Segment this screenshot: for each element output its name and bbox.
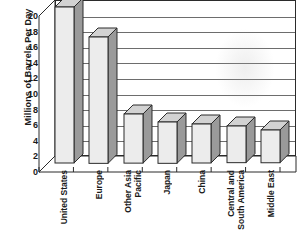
- y-axis-tick-label: 8: [33, 105, 38, 114]
- x-axis-category-label-line: Europe: [94, 170, 104, 199]
- y-axis-tick-label: 0: [33, 168, 38, 177]
- x-axis-category-label-line: Pacific: [133, 170, 143, 197]
- bar-3d-faces: [124, 105, 153, 164]
- x-axis-category-label-line: Central and: [226, 170, 236, 217]
- x-axis-category-label-line: Middle East: [266, 170, 276, 217]
- x-axis-category-label: Middle East: [254, 170, 288, 232]
- x-axis-category-label-line: Other Asia: [123, 170, 133, 213]
- x-axis-category-label-line: South America: [236, 170, 246, 230]
- bar-3d-faces: [227, 117, 256, 164]
- bar-3d-faces: [158, 113, 187, 164]
- bar: [261, 131, 280, 164]
- bar: [89, 38, 108, 164]
- bar: [158, 123, 177, 164]
- y-axis-tick-label: 6: [33, 121, 38, 130]
- x-axis-category-label: United States: [47, 170, 81, 232]
- bar-series: [39, 0, 297, 172]
- bar-chart: Millions of Barrels Per Day 024681012141…: [0, 0, 304, 233]
- y-axis-tick-label: 2: [33, 152, 38, 161]
- y-axis-tick-label: 4: [33, 136, 38, 145]
- y-axis-tick-label: 16: [28, 43, 38, 52]
- bar: [55, 8, 74, 164]
- x-axis-category-label-line: Japan: [162, 170, 172, 195]
- bar-3d-faces: [89, 28, 118, 164]
- x-axis-category-labels: United StatesEuropeOther AsiaPacificJapa…: [39, 170, 297, 233]
- x-axis-category-label: Central andSouth America: [219, 170, 253, 232]
- x-axis-category-label: China: [185, 170, 219, 232]
- x-axis-category-label: Europe: [81, 170, 115, 232]
- bar: [227, 127, 246, 164]
- x-axis-category-label-line: United States: [59, 170, 69, 224]
- y-axis-tick-label: 14: [28, 58, 38, 67]
- bar: [192, 125, 211, 164]
- x-axis-category-label-line: China: [197, 170, 207, 194]
- bar: [124, 115, 143, 164]
- y-axis-tick-label: 10: [28, 90, 38, 99]
- x-axis-category-label: Other AsiaPacific: [116, 170, 150, 232]
- bar-3d-faces: [55, 0, 84, 164]
- y-axis-tick-labels: 02468101214161820: [16, 0, 38, 170]
- y-axis-tick-label: 18: [28, 27, 38, 36]
- plot-area: [39, 0, 297, 172]
- y-axis-tick-label: 20: [28, 12, 38, 21]
- bar-3d-faces: [261, 121, 290, 164]
- y-axis-tick-label: 12: [28, 74, 38, 83]
- bar-3d-faces: [192, 115, 221, 164]
- x-axis-category-label: Japan: [150, 170, 184, 232]
